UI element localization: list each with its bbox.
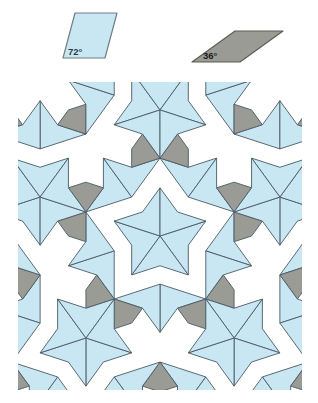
- fat-rhombus-tile: [308, 221, 318, 275]
- thin-rhombus-tile: [308, 332, 318, 362]
- fat-rhombus-tile: [0, 78, 12, 95]
- fat-rhombus-tile: [308, 80, 318, 134]
- thin-rhombus-angle-label: 36°: [203, 50, 218, 61]
- fat-rhombus-tile: [0, 197, 40, 245]
- fat-rhombus-tile: [0, 329, 12, 377]
- fat-rhombus-tile: [308, 78, 318, 95]
- fat-rhombus-tile: [308, 362, 318, 396]
- figure-root: 72° 36°: [0, 0, 318, 403]
- tile-group: [0, 78, 318, 396]
- fat-rhombus-tile: [0, 362, 12, 396]
- fat-rhombus-tile: [280, 197, 318, 245]
- fat-rhombus-tile: [0, 221, 12, 275]
- thin-rhombus-tile: [0, 332, 12, 362]
- fat-rhombus-tile: [0, 80, 12, 134]
- legend: 72° 36°: [0, 0, 318, 78]
- fat-rhombus-tile: [308, 329, 318, 377]
- penrose-tiling: [0, 78, 318, 396]
- fat-rhombus-angle-label: 72°: [68, 46, 83, 57]
